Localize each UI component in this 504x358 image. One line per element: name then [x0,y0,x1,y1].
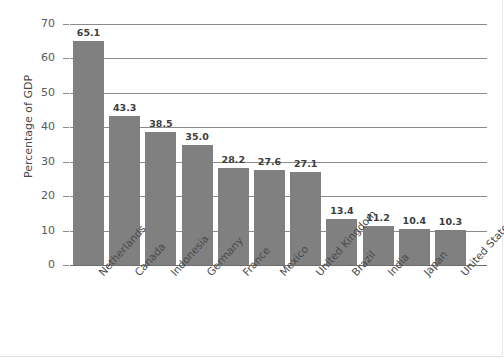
bar[interactable] [73,41,104,265]
y-axis-tick-mark [63,93,69,94]
x-axis-tick-label: Germany [204,270,213,278]
y-axis-tick-labels: 010203040506070 [28,24,55,265]
x-axis-tick-label: United Kingdom [313,270,322,278]
bar-value-label: 65.1 [66,28,112,38]
y-axis-tick-label: 10 [41,225,55,236]
y-axis-tick-mark [63,231,69,232]
y-axis-tick-mark [63,196,69,197]
y-axis-tick-label: 20 [41,190,55,201]
x-axis-tick-label: Brazil [349,270,358,278]
bar-value-label: 43.3 [102,103,148,113]
x-axis-tick-label: Indonesia [168,270,177,278]
y-axis-tick-label: 40 [41,121,55,132]
gridline [70,58,487,59]
y-axis-tick-label: 0 [48,259,55,270]
x-axis-tick-label: United States [458,270,467,278]
y-axis-tick-mark [63,24,69,25]
x-axis-tick-label: Canada [132,270,141,278]
x-axis-tick-label: Japan [421,270,430,278]
y-axis-tick-label: 60 [41,52,55,63]
gridline [70,24,487,25]
x-axis-tick-label: India [385,270,394,278]
bar-value-label: 35.0 [174,132,220,142]
y-axis-tick-label: 50 [41,87,55,98]
y-axis-tick-mark [63,162,69,163]
gridline [70,93,487,94]
chart-page: Percentage of GDP 010203040506070 65.143… [0,0,504,358]
x-axis-tick-label: Netherlands [96,270,105,278]
bar-value-label: 27.1 [283,159,329,169]
y-axis-tick-label: 70 [41,18,55,29]
x-axis-tick-label: Mexico [277,270,286,278]
y-axis-tick-mark [63,127,69,128]
y-axis-tick-mark [63,58,69,59]
y-axis-tick-mark [63,265,69,266]
x-axis-tick-label: France [240,270,249,278]
bar-value-label: 38.5 [138,119,184,129]
bar-value-label: 10.3 [428,217,474,227]
y-axis-tick-label: 30 [41,156,55,167]
